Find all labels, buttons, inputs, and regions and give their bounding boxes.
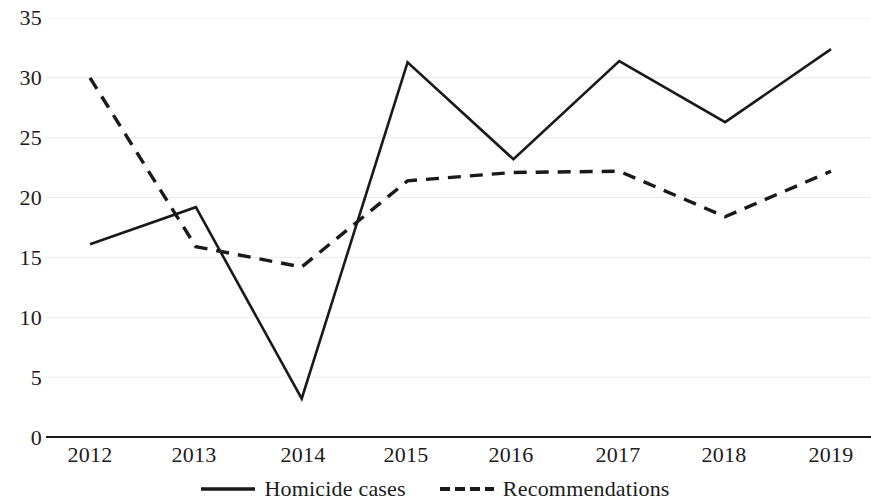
solid-line-icon — [201, 483, 255, 495]
y-tick-label: 5 — [2, 367, 42, 389]
x-tick-label: 2013 — [149, 443, 239, 467]
chart-legend: Homicide cases Recommendations — [0, 476, 871, 502]
x-axis-line — [46, 436, 871, 438]
x-tick-label: 2015 — [361, 443, 451, 467]
x-tick-label: 2012 — [45, 443, 135, 467]
line-chart: 35 30 25 20 15 10 5 0 2012 2013 2014 201… — [0, 0, 871, 502]
legend-item-recommendations: Recommendations — [440, 477, 670, 501]
series-line-recommendations — [90, 78, 831, 267]
y-tick-label: 30 — [2, 67, 42, 89]
y-tick-label: 25 — [2, 127, 42, 149]
gridlines — [46, 18, 871, 377]
plot-area — [46, 18, 871, 437]
y-tick-label: 20 — [2, 187, 42, 209]
legend-label: Recommendations — [503, 477, 670, 501]
x-tick-label: 2016 — [466, 443, 556, 467]
x-tick-label: 2019 — [786, 443, 871, 467]
x-axis: 2012 2013 2014 2015 2016 2017 2018 2019 — [46, 443, 871, 469]
plot-svg — [46, 18, 871, 437]
legend-label: Homicide cases — [264, 477, 405, 501]
y-tick-label: 15 — [2, 247, 42, 269]
x-tick-label: 2014 — [258, 443, 348, 467]
x-tick-label: 2017 — [573, 443, 663, 467]
x-tick-label: 2018 — [679, 443, 769, 467]
dashed-line-icon — [440, 483, 494, 495]
y-tick-label: 10 — [2, 307, 42, 329]
legend-item-homicide-cases: Homicide cases — [201, 477, 405, 501]
series-line-homicide-cases — [90, 49, 831, 399]
y-tick-label: 35 — [2, 7, 42, 29]
y-tick-label: 0 — [2, 427, 42, 449]
y-axis: 35 30 25 20 15 10 5 0 — [0, 0, 42, 460]
